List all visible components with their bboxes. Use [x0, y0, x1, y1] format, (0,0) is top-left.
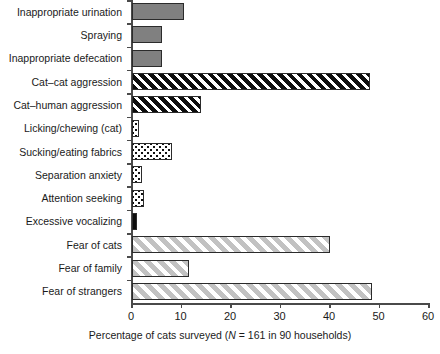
- bar-chart: Inappropriate urinationSprayingInappropr…: [0, 0, 440, 354]
- x-tick-label: 0: [111, 310, 151, 323]
- category-label: Fear of strangers: [0, 285, 122, 297]
- category-label: Sucking/eating fabrics: [0, 146, 122, 158]
- category-label: Licking/chewing (cat): [0, 122, 122, 134]
- category-axis-labels: Inappropriate urinationSprayingInappropr…: [0, 0, 127, 303]
- category-label: Cat–human aggression: [0, 99, 122, 111]
- y-tick: [127, 140, 131, 142]
- x-tick-label: 30: [260, 310, 300, 323]
- y-tick: [127, 233, 131, 235]
- y-tick: [127, 47, 131, 49]
- x-tick: [280, 303, 282, 308]
- bar: [132, 3, 184, 20]
- x-tick-label: 60: [408, 310, 440, 323]
- bar: [132, 26, 162, 43]
- bar: [132, 260, 189, 277]
- category-label: Cat–cat aggression: [0, 76, 122, 88]
- bar: [132, 50, 162, 67]
- y-tick: [127, 210, 131, 212]
- y-tick: [127, 163, 131, 165]
- bar: [132, 236, 330, 253]
- x-tick: [131, 303, 133, 308]
- y-tick: [127, 93, 131, 95]
- x-axis-title-n-symbol: N: [228, 329, 236, 341]
- y-tick: [127, 280, 131, 282]
- x-tick: [329, 303, 331, 308]
- bar: [132, 190, 144, 207]
- x-tick-label: 50: [359, 310, 399, 323]
- x-tick: [428, 303, 430, 308]
- category-label: Separation anxiety: [0, 169, 122, 181]
- bar: [132, 96, 201, 113]
- y-tick: [127, 0, 131, 2]
- y-tick: [127, 23, 131, 25]
- bar: [132, 120, 139, 137]
- x-tick-label: 40: [309, 310, 349, 323]
- plot-area: 0102030405060: [131, 0, 428, 303]
- x-tick: [230, 303, 232, 308]
- x-tick: [181, 303, 183, 308]
- x-tick: [379, 303, 381, 308]
- category-label: Excessive vocalizing: [0, 215, 122, 227]
- bar: [132, 73, 370, 90]
- category-label: Spraying: [0, 29, 122, 41]
- y-tick: [127, 256, 131, 258]
- y-tick: [127, 186, 131, 188]
- x-axis-title-suffix: = 161 in 90 households): [236, 329, 351, 341]
- x-axis-title: Percentage of cats surveyed (N = 161 in …: [0, 329, 440, 342]
- bar: [132, 283, 372, 300]
- category-label: Attention seeking: [0, 192, 122, 204]
- x-axis-title-prefix: Percentage of cats surveyed (: [89, 329, 229, 341]
- bar: [132, 213, 137, 230]
- y-tick: [127, 70, 131, 72]
- x-tick-label: 20: [210, 310, 250, 323]
- category-label: Fear of cats: [0, 239, 122, 251]
- x-tick-label: 10: [161, 310, 201, 323]
- category-label: Inappropriate urination: [0, 6, 122, 18]
- y-tick: [127, 117, 131, 119]
- bar: [132, 143, 172, 160]
- category-label: Fear of family: [0, 262, 122, 274]
- category-label: Inappropriate defecation: [0, 52, 122, 64]
- bar: [132, 166, 142, 183]
